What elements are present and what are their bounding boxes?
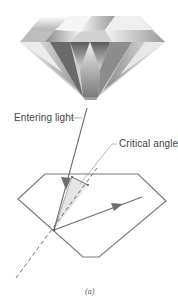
reflection-point bbox=[53, 229, 56, 232]
diamond-crown bbox=[20, 16, 165, 42]
diamond-illustration bbox=[0, 0, 178, 304]
reflected-ray-arrowhead bbox=[111, 203, 123, 211]
figure-caption: (a) bbox=[85, 288, 94, 296]
entering-light-ray bbox=[54, 108, 87, 230]
entering-light-label: Entering light bbox=[14, 113, 74, 123]
critical-angle-label: Critical angle bbox=[119, 139, 178, 149]
diamond-pavilion bbox=[20, 42, 165, 100]
diamond-refraction-figure: Entering light Critical angle (a) bbox=[0, 0, 178, 304]
critical-angle-leader bbox=[80, 144, 117, 184]
